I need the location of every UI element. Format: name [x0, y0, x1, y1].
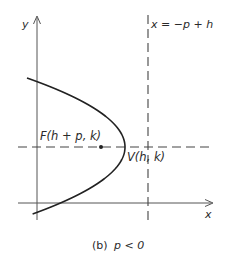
parabola-diagram: y x x = −p + h F(h + p, k) V(h, k) (b) p… — [0, 0, 227, 260]
vertex-label: V(h, k) — [127, 150, 165, 164]
parabola-curve — [27, 78, 125, 214]
focus-point — [99, 145, 103, 149]
figure-caption-condition: p < 0 — [113, 239, 144, 252]
directrix-label: x = −p + h — [150, 18, 213, 31]
figure-caption-prefix: (b) — [92, 239, 108, 252]
y-axis-label: y — [21, 18, 29, 31]
focus-label: F(h + p, k) — [40, 129, 101, 143]
x-axis-label: x — [204, 208, 212, 221]
